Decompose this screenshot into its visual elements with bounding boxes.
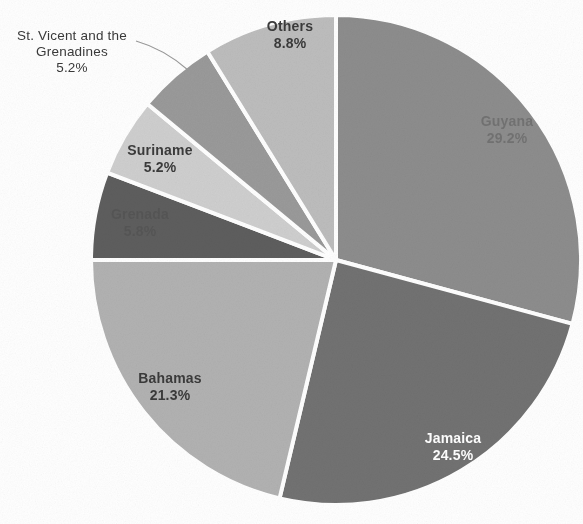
- slice-label-guyana-name: Guyana: [481, 113, 534, 129]
- slice-label-guyana-percent: 29.2%: [452, 130, 562, 147]
- slice-label-others: Others 8.8%: [230, 18, 350, 51]
- slice-label-stvincent-line2: Grenadines: [36, 44, 108, 59]
- slice-label-jamaica: Jamaica 24.5%: [398, 430, 508, 463]
- slice-label-suriname: Suriname 5.2%: [105, 142, 215, 175]
- slice-label-suriname-percent: 5.2%: [105, 159, 215, 176]
- slice-label-grenada-percent: 5.8%: [85, 223, 195, 240]
- slice-label-suriname-name: Suriname: [127, 142, 192, 158]
- slice-label-bahamas-percent: 21.3%: [110, 387, 230, 404]
- slice-label-others-percent: 8.8%: [230, 35, 350, 52]
- slice-label-guyana: Guyana 29.2%: [452, 113, 562, 146]
- slice-label-jamaica-percent: 24.5%: [398, 447, 508, 464]
- slice-label-others-name: Others: [267, 18, 313, 34]
- slice-label-stvincent: St. Vicent and the Grenadines 5.2%: [2, 28, 142, 76]
- slice-label-bahamas-name: Bahamas: [138, 370, 202, 386]
- slice-label-stvincent-line1: St. Vicent and the: [17, 28, 127, 43]
- slice-label-jamaica-name: Jamaica: [425, 430, 482, 446]
- slice-label-stvincent-percent: 5.2%: [2, 60, 142, 76]
- pie-chart-page: Guyana 29.2% Jamaica 24.5% Bahamas 21.3%…: [0, 0, 583, 524]
- slice-label-bahamas: Bahamas 21.3%: [110, 370, 230, 403]
- slice-label-grenada: Grenada 5.8%: [85, 206, 195, 239]
- slice-label-grenada-name: Grenada: [111, 206, 169, 222]
